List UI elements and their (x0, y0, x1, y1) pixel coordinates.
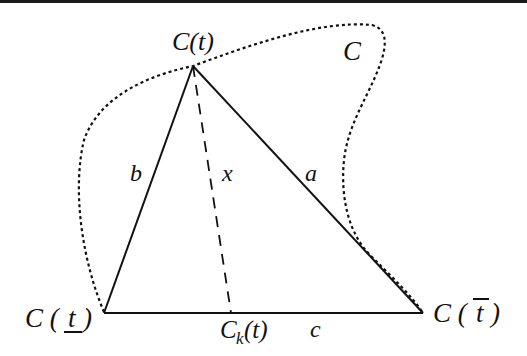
svg-text:t: t (68, 303, 77, 333)
svg-text:): ) (489, 298, 500, 328)
label-foot: C k (t) (220, 316, 268, 348)
svg-text:): ) (81, 303, 92, 333)
label-left-vertex: C ( t ) (25, 303, 92, 333)
label-edge-b: b (130, 160, 142, 186)
svg-text:t: t (476, 298, 485, 328)
label-right-vertex: C ( t ) (433, 298, 500, 328)
svg-text:k: k (236, 329, 244, 348)
label-apex: C(t) (172, 27, 214, 56)
svg-text:C: C (220, 316, 237, 343)
triangle-curve-diagram: C(t) C b x a c C ( t ) C ( t ) C k (t) (0, 0, 527, 356)
edge-a (193, 66, 423, 313)
label-edge-x: x (221, 160, 233, 186)
edge-b (104, 66, 193, 313)
label-edge-a: a (305, 160, 317, 186)
svg-text:C (: C ( (433, 298, 469, 328)
label-curve-c: C (343, 36, 362, 66)
label-edge-c: c (310, 316, 321, 342)
edge-x (193, 66, 231, 313)
svg-text:(t): (t) (244, 316, 268, 344)
svg-text:C (: C ( (25, 303, 61, 333)
